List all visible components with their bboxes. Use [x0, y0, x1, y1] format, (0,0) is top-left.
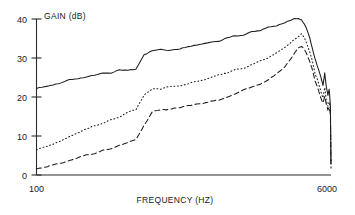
x-tick-label-min: 100 — [29, 184, 44, 194]
x-tick-label-max: 6000 — [317, 184, 337, 194]
y-axis-title: GAIN (dB) — [44, 11, 86, 21]
y-tick-label-40: 40 — [17, 15, 27, 25]
series-line-solid — [37, 18, 332, 163]
series-line-dotted — [37, 34, 332, 165]
gain-frequency-chart: 40 30 20 10 0 GAIN (dB) 100 6000 FREQUEN… — [0, 0, 355, 215]
y-tick-label-10: 10 — [17, 132, 27, 142]
x-axis-group: 100 6000 FREQUENCY (HZ) — [29, 175, 337, 205]
y-axis-group: 40 30 20 10 0 GAIN (dB) — [17, 11, 86, 181]
series-group — [37, 18, 332, 168]
chart-canvas: 40 30 20 10 0 GAIN (dB) 100 6000 FREQUEN… — [0, 0, 355, 215]
series-line-dashed — [37, 47, 332, 169]
y-tick-label-30: 30 — [17, 54, 27, 64]
y-tick-label-20: 20 — [17, 93, 27, 103]
y-tick-label-0: 0 — [22, 171, 27, 181]
x-axis-title: FREQUENCY (HZ) — [137, 195, 214, 205]
